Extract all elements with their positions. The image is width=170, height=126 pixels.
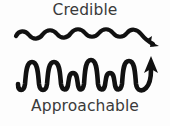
approachable-wave-group [18,56,158,90]
label-approachable: Approachable [0,99,170,115]
diagram-canvas: Credible Approachable [0,0,170,126]
credible-wave-group [16,29,159,47]
approachable-wave-path [18,60,151,90]
credible-wave-path [16,29,153,44]
